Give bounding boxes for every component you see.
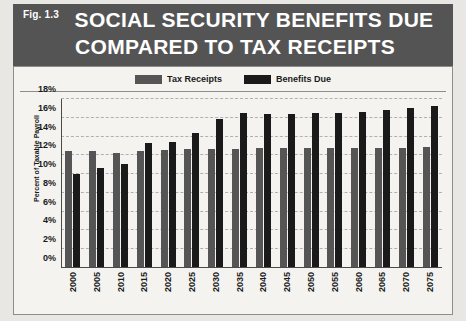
figure-number-label: Fig. 1.3 [23,9,59,20]
x-axis-tick-label: 2040 [258,272,268,292]
chart-title-line-2: COMPARED TO TAX RECEIPTS [23,33,447,60]
x-axis-tick-label: 2025 [187,272,197,292]
chart-title: SOCIAL SECURITY BENEFITS DUE COMPARED TO… [61,6,447,60]
y-axis-tick-label: 0% [43,253,56,263]
y-axis-tick-label: 10% [38,159,56,169]
plot-axes-frame [61,99,442,268]
legend-label-tax-receipts: Tax Receipts [167,74,222,84]
x-axis-tick-label: 2045 [282,272,292,292]
chart-panel: Tax Receipts Benefits Due Percent of Tax… [13,66,453,315]
figure-header: Fig. 1.3 SOCIAL SECURITY BENEFITS DUE CO… [13,4,453,66]
x-axis-tick-label: 2015 [139,272,149,292]
y-axis-tick-label: 6% [43,197,56,207]
legend-item-benefits-due: Benefits Due [244,74,331,84]
chart-legend: Tax Receipts Benefits Due [14,71,452,87]
y-axis-tick-label: 4% [43,215,56,225]
legend-label-benefits-due: Benefits Due [276,74,331,84]
x-axis-tick-label: 2005 [92,272,102,292]
legend-item-tax-receipts: Tax Receipts [135,74,222,84]
x-axis-tick-label: 2020 [163,272,173,292]
x-axis-tick-label: 2035 [235,272,245,292]
figure-container: Fig. 1.3 SOCIAL SECURITY BENEFITS DUE CO… [0,0,466,321]
y-axis-tick-label: 8% [43,178,56,188]
y-axis-tick-label: 18% [38,84,56,94]
y-axis-tick-label: 16% [38,103,56,113]
x-axis-tick-label: 2065 [377,272,387,292]
legend-divider [20,91,446,92]
y-axis-tick-label: 14% [38,122,56,132]
x-axis-tick-label: 2070 [401,272,411,292]
x-axis-tick-label: 2075 [425,272,435,292]
legend-swatch-tax-receipts [135,75,162,84]
x-axis-tick-label: 2060 [354,272,364,292]
y-axis-tick-label: 2% [43,234,56,244]
x-axis-tick-label: 2010 [116,272,126,292]
x-axis-tick-label: 2030 [211,272,221,292]
plot-area: 0%2%4%6%8%10%12%14%16%18% 20002005201020… [61,99,442,268]
legend-swatch-benefits-due [244,75,271,84]
x-axis-tick-label: 2055 [330,272,340,292]
chart-title-line-1: SOCIAL SECURITY BENEFITS DUE [61,6,447,33]
x-axis-tick-label: 2050 [306,272,316,292]
y-axis-tick-label: 12% [38,140,56,150]
x-axis-tick-label: 2000 [68,272,78,292]
